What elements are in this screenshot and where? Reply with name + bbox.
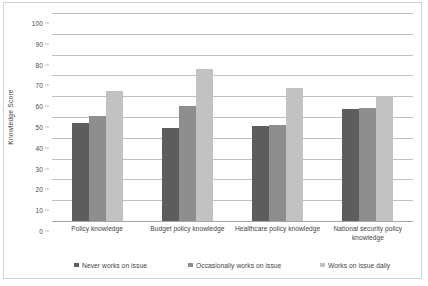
- y-tick-label-50: 50: [36, 124, 43, 131]
- legend-item[interactable]: Never works on issue: [74, 262, 147, 269]
- bar[interactable]: [179, 106, 196, 221]
- bar[interactable]: [286, 88, 303, 221]
- y-tick-mark-60: [45, 106, 49, 107]
- bar-group: [233, 13, 323, 221]
- bar[interactable]: [252, 126, 269, 221]
- y-tick-label-100: 100: [32, 20, 43, 27]
- chart-legend: Never works on issueOccasionally works o…: [52, 259, 413, 271]
- bar[interactable]: [106, 91, 123, 221]
- legend-label: Never works on issue: [82, 262, 147, 269]
- y-tick-label-90: 90: [36, 40, 43, 47]
- bar[interactable]: [89, 116, 106, 221]
- y-tick-mark-70: [45, 85, 49, 86]
- bar[interactable]: [376, 96, 393, 221]
- plot-area: [52, 13, 413, 221]
- y-axis: 0102030405060708090100: [4, 13, 50, 221]
- x-axis-label: Healthcare policy knowledge: [233, 225, 323, 234]
- bars-layer: [52, 13, 413, 221]
- y-tick-mark-30: [45, 168, 49, 169]
- legend-label: Occasionally works on issue: [196, 262, 281, 269]
- y-tick-label-40: 40: [36, 144, 43, 151]
- x-axis-label: National security policy knowledge: [323, 225, 413, 242]
- y-tick-mark-10: [45, 210, 49, 211]
- y-tick-label-10: 10: [36, 207, 43, 214]
- y-tick-label-30: 30: [36, 165, 43, 172]
- y-tick-mark-0: [45, 231, 49, 232]
- bar[interactable]: [269, 125, 286, 221]
- bar[interactable]: [359, 108, 376, 221]
- legend-item[interactable]: Occasionally works on issue: [188, 262, 281, 269]
- y-tick-label-0: 0: [39, 228, 43, 235]
- legend-swatch-icon: [74, 263, 79, 268]
- legend-swatch-icon: [188, 263, 193, 268]
- y-tick-mark-100: [45, 23, 49, 24]
- y-tick-label-80: 80: [36, 61, 43, 68]
- x-axis-labels: Policy knowledgeBudget policy knowledgeH…: [52, 225, 413, 253]
- y-tick-mark-90: [45, 43, 49, 44]
- y-tick-label-60: 60: [36, 103, 43, 110]
- bar[interactable]: [72, 123, 89, 221]
- chart-container: Knowledge Score 0102030405060708090100 P…: [3, 2, 422, 279]
- bar[interactable]: [162, 128, 179, 221]
- gridline-0: [52, 221, 413, 222]
- bar-group: [52, 13, 142, 221]
- y-tick-label-20: 20: [36, 186, 43, 193]
- legend-label: Works on issue daily: [328, 262, 390, 269]
- y-tick-mark-40: [45, 147, 49, 148]
- bar-group: [142, 13, 232, 221]
- y-tick-mark-20: [45, 189, 49, 190]
- y-tick-mark-50: [45, 127, 49, 128]
- y-tick-label-70: 70: [36, 82, 43, 89]
- legend-swatch-icon: [320, 263, 325, 268]
- legend-item[interactable]: Works on issue daily: [320, 262, 390, 269]
- bar-group: [323, 13, 413, 221]
- x-axis-label: Budget policy knowledge: [142, 225, 232, 234]
- x-axis-label: Policy knowledge: [52, 225, 142, 234]
- bar[interactable]: [196, 69, 213, 221]
- y-tick-mark-80: [45, 64, 49, 65]
- bar[interactable]: [342, 109, 359, 221]
